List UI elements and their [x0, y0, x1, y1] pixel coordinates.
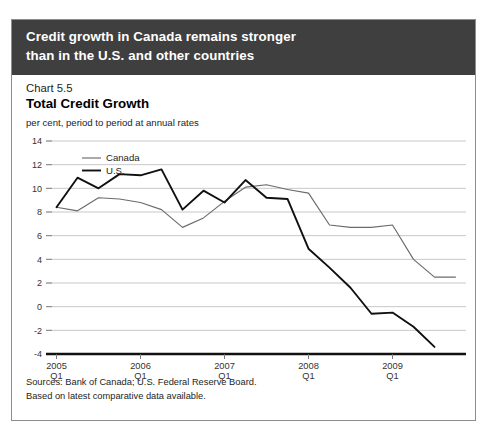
x-axis-year-label: 2008	[298, 361, 319, 371]
series-line-canada	[57, 185, 456, 277]
y-axis-tick-label: -2	[34, 326, 42, 336]
y-axis-tick-labels: 14121086420-2-4	[32, 136, 42, 359]
y-axis-tick-label: 4	[37, 255, 42, 265]
x-axis-year-label: 2007	[214, 361, 235, 371]
plot-area: 14121086420-2-4 2005Q12006Q12007Q12008Q1…	[12, 20, 475, 420]
x-axis-quarter-label: Q1	[386, 371, 398, 381]
y-axis-tick-label: 14	[32, 136, 42, 146]
x-axis-year-label: 2009	[382, 361, 403, 371]
line-chart-svg: 14121086420-2-4 2005Q12006Q12007Q12008Q1…	[12, 20, 475, 420]
legend-label-us: U.S.	[106, 165, 125, 176]
source-note-line-2: Based on latest comparative data availab…	[26, 389, 256, 403]
y-axis-tick-label: -4	[34, 349, 42, 359]
x-axis-year-label: 2006	[130, 361, 151, 371]
screenshot-root: Credit growth in Canada remains stronger…	[0, 0, 492, 438]
y-axis-tick-label: 10	[32, 184, 42, 194]
y-axis-tick-label: 12	[32, 160, 42, 170]
source-note-line-1: Sources: Bank of Canada; U.S. Federal Re…	[26, 375, 256, 389]
chart-card: Credit growth in Canada remains stronger…	[11, 19, 476, 421]
source-notes: Sources: Bank of Canada; U.S. Federal Re…	[26, 375, 256, 403]
x-axis-quarter-label: Q1	[302, 371, 314, 381]
data-series-group	[57, 169, 456, 347]
y-axis-tick-label: 8	[37, 207, 42, 217]
legend-label-canada: Canada	[106, 152, 140, 163]
y-axis-tick-label: 0	[37, 302, 42, 312]
y-axis-tick-label: 2	[37, 278, 42, 288]
y-axis-tick-label: 6	[37, 231, 42, 241]
legend: CanadaU.S.	[82, 152, 140, 176]
x-axis-year-label: 2005	[46, 361, 67, 371]
series-line-us	[57, 169, 435, 347]
